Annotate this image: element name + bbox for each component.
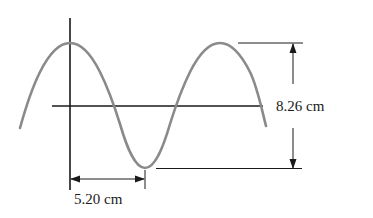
wavelength-label: 5.20 cm bbox=[74, 191, 123, 207]
wave-diagram: 8.26 cm 5.20 cm bbox=[0, 0, 373, 218]
amplitude-label: 8.26 cm bbox=[276, 98, 325, 114]
